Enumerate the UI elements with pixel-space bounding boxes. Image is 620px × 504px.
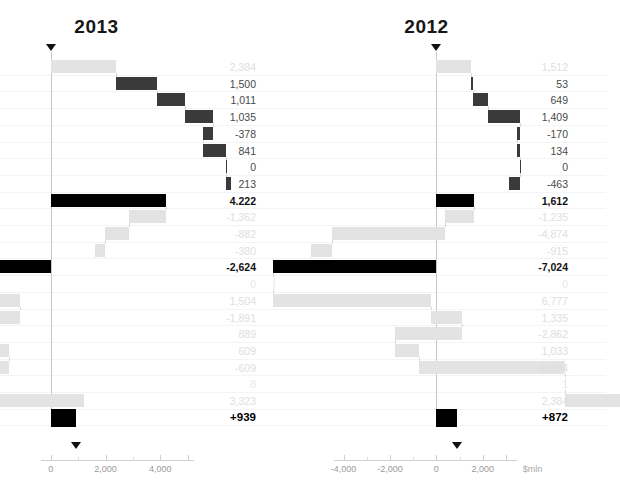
axis-tick-minor <box>506 455 507 461</box>
plot-area-2013 <box>0 52 303 424</box>
waterfall-bar <box>0 294 20 307</box>
value-label: -378 <box>235 128 256 140</box>
axis-rule <box>334 460 517 461</box>
gridline <box>303 292 606 293</box>
waterfall-bar <box>520 160 521 173</box>
gridline <box>303 275 606 276</box>
value-label: 1,512 <box>542 61 568 73</box>
value-label: -882 <box>235 228 256 240</box>
value-label: 6,284 <box>542 362 568 374</box>
waterfall-bar <box>226 177 232 190</box>
waterfall-connector <box>445 223 446 227</box>
axis-tick-label: -2,000 <box>377 464 403 474</box>
waterfall-bar <box>332 227 445 240</box>
value-label: 0 <box>250 278 256 290</box>
waterfall-bar <box>51 60 116 73</box>
gridline <box>0 325 303 326</box>
axis-tick <box>51 455 52 461</box>
axis-tick-minor <box>460 457 461 461</box>
gridline <box>303 208 606 209</box>
waterfall-connector <box>462 324 463 328</box>
waterfall-bar <box>311 244 332 257</box>
value-label: 0 <box>562 161 568 173</box>
gridline <box>0 175 303 176</box>
zero-axis-line <box>51 52 52 424</box>
value-label: -170 <box>547 128 568 140</box>
axis-tick <box>344 455 345 461</box>
gridline <box>303 325 606 326</box>
waterfall-bar <box>185 110 213 123</box>
gridline <box>0 258 303 259</box>
gridline <box>0 142 303 143</box>
gridline <box>0 125 303 126</box>
axis-tick <box>160 455 161 461</box>
waterfall-bar <box>51 194 166 207</box>
axis-tick-label: 0 <box>48 464 53 474</box>
gridline <box>0 425 303 426</box>
waterfall-bar <box>95 244 105 257</box>
value-label: -1,235 <box>538 211 568 223</box>
gridline <box>303 342 606 343</box>
axis-tick <box>106 455 107 461</box>
axis-tick-label: 4,000 <box>149 464 172 474</box>
value-label: 213 <box>238 178 256 190</box>
gridline <box>0 375 303 376</box>
waterfall-bar <box>471 77 472 90</box>
waterfall-bar <box>129 210 166 223</box>
waterfall-panel-2013: 2013 2,3841,5001,0111,035-37884102134.22… <box>0 0 303 504</box>
value-label: +939 <box>230 411 256 423</box>
total-marker-icon <box>452 442 462 449</box>
value-label: 6,777 <box>542 295 568 307</box>
waterfall-connector <box>520 173 521 177</box>
gridline <box>0 309 303 310</box>
axis-tick <box>436 455 437 461</box>
waterfall-bar <box>51 409 77 427</box>
value-label: 1,612 <box>542 195 568 207</box>
waterfall-bar <box>203 144 226 157</box>
zero-axis-marker-icon <box>431 44 441 51</box>
waterfall-bar <box>436 194 473 207</box>
waterfall-connector <box>20 307 21 311</box>
waterfall-bar <box>0 311 20 324</box>
waterfall-bar <box>436 60 471 73</box>
gridline <box>303 359 606 360</box>
value-label: 609 <box>238 345 256 357</box>
gridline <box>303 192 606 193</box>
waterfall-bar <box>509 177 520 190</box>
axis-tick-minor <box>133 457 134 461</box>
value-label: 1,033 <box>542 345 568 357</box>
waterfall-bar <box>395 327 461 340</box>
axis-tick-minor <box>78 457 79 461</box>
axis-tick-label: 0 <box>434 464 439 474</box>
waterfall-connector <box>129 223 130 227</box>
value-label: 1,335 <box>542 312 568 324</box>
value-label: -1,891 <box>226 312 256 324</box>
gridline <box>0 208 303 209</box>
waterfall-bar <box>517 127 521 140</box>
waterfall-bar <box>116 77 157 90</box>
waterfall-bar <box>0 260 51 273</box>
value-label: 0 <box>250 161 256 173</box>
waterfall-bar <box>105 227 129 240</box>
x-axis-2013: 02,0004,000 <box>0 452 303 482</box>
gridline <box>0 91 303 92</box>
waterfall-connector <box>332 240 333 244</box>
gridline <box>303 392 606 393</box>
value-label: 2,384 <box>542 395 568 407</box>
gridline <box>0 292 303 293</box>
gridline <box>0 242 303 243</box>
value-label: -380 <box>235 245 256 257</box>
value-label: 1 <box>562 378 568 390</box>
value-label: -7,024 <box>538 261 568 273</box>
value-label: -1,362 <box>226 211 256 223</box>
axis-tick-minor <box>188 455 189 461</box>
total-marker-icon <box>71 442 81 449</box>
value-label: -4,874 <box>538 228 568 240</box>
axis-tick <box>483 455 484 461</box>
value-label: +872 <box>542 411 568 423</box>
year-title-2013: 2013 <box>0 16 248 38</box>
gridline <box>303 375 606 376</box>
waterfall-bar <box>436 409 456 427</box>
waterfall-bar <box>157 93 185 106</box>
gridline <box>303 258 606 259</box>
